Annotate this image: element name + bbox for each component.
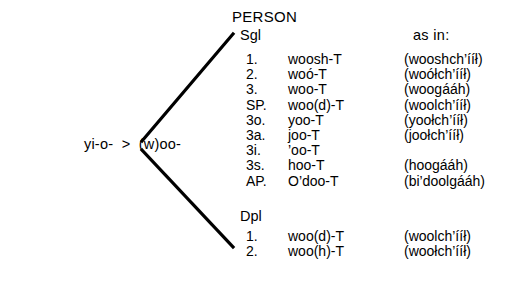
example-form: (woolch’ííł)	[404, 98, 471, 113]
verb-form: woo-T	[288, 82, 327, 97]
verb-form: hoo-T	[288, 158, 325, 173]
verb-form: woo(h)-T	[288, 244, 344, 259]
verb-form: woosh-T	[288, 52, 342, 67]
verb-form: woó-T	[288, 67, 327, 82]
example-form: (bi’doolgááh)	[404, 174, 485, 189]
person-label: 3a.	[246, 128, 265, 143]
verb-form: yoo-T	[288, 113, 324, 128]
person-label: SP.	[246, 98, 267, 113]
verb-form: ’oo-T	[288, 143, 320, 158]
person-label: 3o.	[246, 113, 265, 128]
person-label: 2.	[246, 67, 258, 82]
verb-form: woo(d)-T	[288, 98, 344, 113]
example-form: (woolch’ííł)	[404, 229, 471, 244]
example-form: (wooshch’ííł)	[404, 52, 483, 67]
example-form: (woółch’ííł)	[404, 67, 471, 82]
verb-form: O’doo-T	[288, 174, 339, 189]
example-form: (woołch’ííł)	[404, 244, 471, 259]
person-label: AP.	[246, 174, 267, 189]
example-form: (hoogááh)	[404, 158, 468, 173]
person-label: 3s.	[246, 158, 265, 173]
as-in-column-heading: as in:	[413, 27, 449, 43]
branch-line-dual-plural	[142, 150, 233, 247]
root-form-label: yi-o- > (w)oo-	[84, 136, 181, 152]
person-label: 1.	[246, 52, 258, 67]
verb-form: joo-T	[288, 128, 320, 143]
verb-form: woo(d)-T	[288, 229, 344, 244]
example-form: (joołch’ííł)	[404, 128, 464, 143]
morphology-branching-diagram: yi-o- > (w)oo- PERSON Sgl as in: 1. woos…	[0, 0, 524, 282]
person-label: 3.	[246, 82, 258, 97]
singular-group-heading: Sgl	[240, 27, 261, 43]
branch-line-singular	[142, 34, 233, 141]
person-label: 1.	[246, 229, 258, 244]
person-label: 2.	[246, 244, 258, 259]
example-form: (woogááh)	[404, 82, 470, 97]
person-column-heading: PERSON	[232, 8, 297, 25]
dual-plural-group-heading: Dpl	[240, 208, 262, 224]
person-label: 3i.	[246, 143, 261, 158]
example-form: (yoołch’ííł)	[404, 113, 468, 128]
